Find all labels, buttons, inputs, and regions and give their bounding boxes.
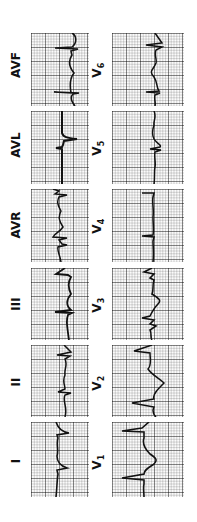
- ecg-panel-avl: [31, 111, 89, 184]
- ecg-panel-v6: [112, 33, 184, 106]
- ecg-panel-v2: [112, 345, 184, 417]
- ecg-panel-v4: [112, 189, 184, 262]
- ecg-trace-avr: [31, 189, 89, 262]
- ecg-trace-avl: [31, 111, 89, 184]
- lead-label-v4: V4: [90, 214, 106, 238]
- ecg-panel-ii: [31, 345, 89, 417]
- lead-label-i: I: [9, 447, 23, 475]
- ecg-trace-iii: [31, 268, 89, 340]
- lead-label-avf: AVF: [9, 51, 23, 79]
- ecg-trace-v4: [112, 189, 184, 262]
- ecg-panel-v5: [112, 111, 184, 184]
- ecg-trace-v6: [112, 33, 184, 106]
- ecg-panel-iii: [31, 268, 89, 340]
- lead-label-v6: V6: [90, 58, 106, 82]
- ecg-panel-v1: [112, 422, 184, 497]
- ecg-trace-v5: [112, 111, 184, 184]
- lead-label-avr: AVR: [9, 211, 23, 239]
- ecg-trace-v3: [112, 268, 184, 340]
- ecg-trace-v1: [112, 422, 184, 497]
- ecg-panel-v3: [112, 268, 184, 340]
- ecg-trace-i: [31, 422, 89, 497]
- ecg-panel-avr: [31, 189, 89, 262]
- ecg-panel-i: [31, 422, 89, 497]
- ecg-trace-v2: [112, 345, 184, 417]
- lead-label-v5: V5: [90, 136, 106, 160]
- lead-label-iii: III: [9, 290, 23, 318]
- lead-label-ii: II: [9, 368, 23, 396]
- ecg-trace-ii: [31, 345, 89, 417]
- lead-label-v1: V1: [90, 450, 106, 474]
- lead-label-v2: V2: [90, 371, 106, 395]
- ecg-trace-avf: [31, 33, 89, 106]
- lead-label-v3: V3: [90, 293, 106, 317]
- lead-label-avl: AVL: [9, 131, 23, 159]
- ecg-panel-avf: [31, 33, 89, 106]
